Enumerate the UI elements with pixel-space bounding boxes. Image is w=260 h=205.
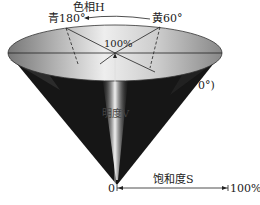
top-value-label: 100% (104, 38, 133, 50)
cyan-label: 青180° (48, 13, 86, 25)
red-label: 0°) (198, 80, 215, 92)
value-axis-label: 明度V (102, 108, 129, 120)
hsv-cone-diagram (0, 0, 260, 205)
yellow-label: 黄60° (152, 13, 183, 25)
saturation-max-label: 100% (230, 183, 260, 195)
origin-label: 0 (108, 183, 115, 195)
saturation-label: 饱和度S (153, 174, 194, 186)
